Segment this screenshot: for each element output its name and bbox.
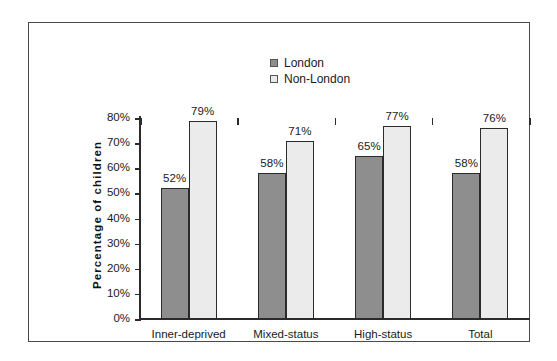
bar-value-label: 77% xyxy=(386,110,409,123)
y-axis-tick: 10% xyxy=(135,294,141,296)
y-axis-tick-label: 80% xyxy=(107,110,130,124)
figure-frame: London Non-London Percentage of children… xyxy=(28,22,530,342)
bar-value-label: 65% xyxy=(358,140,381,153)
x-axis-tick xyxy=(529,118,531,125)
non-london-swatch-icon xyxy=(270,75,278,83)
legend-item-london[interactable]: London xyxy=(270,56,350,70)
y-axis-tick: 70% xyxy=(135,143,141,145)
y-axis-tick-label: 70% xyxy=(107,135,130,149)
legend-label-london: London xyxy=(284,57,324,69)
london-swatch-icon xyxy=(270,59,278,67)
y-axis-tick-label: 30% xyxy=(107,236,130,250)
chart-figure: London Non-London Percentage of children… xyxy=(0,0,557,361)
x-axis-tick xyxy=(237,118,239,125)
x-axis-category-label: Mixed-status xyxy=(253,327,318,341)
bar-inner-deprived-london[interactable] xyxy=(161,188,189,319)
bar-total-london[interactable] xyxy=(452,173,480,319)
x-axis-tick xyxy=(335,118,337,125)
y-axis-tick-label: 20% xyxy=(107,261,130,275)
bar-high-status-london[interactable] xyxy=(355,156,383,319)
y-axis-tick-label: 0% xyxy=(113,311,130,325)
bar-inner-deprived-non-london[interactable] xyxy=(189,121,217,319)
y-axis-tick: 30% xyxy=(135,244,141,246)
bar-value-label: 58% xyxy=(455,157,478,170)
y-axis-tick: 40% xyxy=(135,219,141,221)
y-axis-tick: 60% xyxy=(135,168,141,170)
bar-value-label: 58% xyxy=(260,157,283,170)
x-axis-tick xyxy=(432,118,434,125)
chart-legend: London Non-London xyxy=(270,56,350,86)
bar-total-non-london[interactable] xyxy=(480,128,508,319)
y-axis-tick-label: 40% xyxy=(107,211,130,225)
x-axis-category-label: Total xyxy=(468,327,492,341)
x-axis-tick xyxy=(140,118,142,125)
bar-value-label: 79% xyxy=(191,105,214,118)
y-axis-tick: 0% xyxy=(135,319,141,321)
plot-area: 0%10%20%30%40%50%60%70%80%52%79%58%71%65… xyxy=(140,118,529,319)
bar-value-label: 52% xyxy=(163,172,186,185)
y-axis-tick: 50% xyxy=(135,193,141,195)
y-axis-tick: 20% xyxy=(135,269,141,271)
legend-label-non-london: Non-London xyxy=(284,73,350,85)
x-axis-category-label: High-status xyxy=(354,327,412,341)
legend-item-non-london[interactable]: Non-London xyxy=(270,72,350,86)
x-axis-category-label: Inner-deprived xyxy=(152,327,226,341)
y-axis-title: Percentage of children xyxy=(91,105,103,325)
y-axis-tick-label: 60% xyxy=(107,160,130,174)
y-axis-tick-label: 10% xyxy=(107,286,130,300)
bar-value-label: 71% xyxy=(288,125,311,138)
bar-mixed-status-non-london[interactable] xyxy=(286,141,314,319)
y-axis-tick-label: 50% xyxy=(107,185,130,199)
bar-mixed-status-london[interactable] xyxy=(258,173,286,319)
bar-value-label: 76% xyxy=(483,112,506,125)
bar-high-status-non-london[interactable] xyxy=(383,126,411,319)
